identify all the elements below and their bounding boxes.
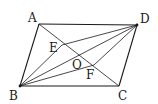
segment-da: [39, 24, 137, 25]
label-e: E: [49, 41, 58, 55]
label-o: O: [72, 58, 82, 72]
segment-cd: [119, 25, 137, 86]
label-a: A: [27, 11, 37, 25]
label-b: B: [9, 89, 18, 103]
vertex-d-dot: [136, 24, 139, 27]
segment-bd: [20, 25, 137, 86]
parallelogram-diagram: A D B C E O F: [0, 0, 158, 104]
label-f: F: [86, 68, 94, 82]
diagram-canvas: A D B C E O F: [0, 0, 158, 104]
vertex-b-dot: [19, 85, 22, 88]
label-c: C: [118, 89, 127, 103]
label-d: D: [140, 12, 150, 26]
